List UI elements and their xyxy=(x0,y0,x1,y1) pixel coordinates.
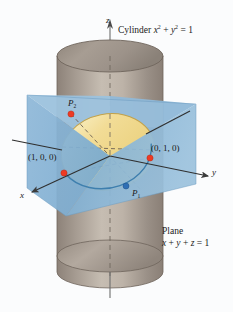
marker-point-1-0-0[interactable] xyxy=(61,170,67,176)
label-plane-title: Plane xyxy=(162,226,183,236)
label-cylinder-equation: Cylinder x2 + y2 = 1 xyxy=(118,24,193,36)
label-axis-x: x xyxy=(20,190,24,200)
figure-container: Cylinder x2 + y2 = 1 Plane x + y + z = 1… xyxy=(0,0,233,312)
marker-point-p1[interactable] xyxy=(123,183,129,189)
label-plane: Plane x + y + z = 1 xyxy=(162,226,209,249)
label-plane-equation: x + y + z = 1 xyxy=(162,238,209,249)
label-point-1-0-0: (1, 0, 0) xyxy=(28,152,57,162)
label-point-p1: P1 xyxy=(132,188,140,198)
label-axis-z: z xyxy=(106,15,110,25)
marker-point-p2[interactable] xyxy=(68,111,74,117)
label-axis-y: y xyxy=(212,167,216,177)
label-point-p2: P2 xyxy=(68,98,76,108)
label-point-0-1-0: (0, 1, 0) xyxy=(151,143,180,153)
marker-point-0-1-0[interactable] xyxy=(147,155,153,161)
